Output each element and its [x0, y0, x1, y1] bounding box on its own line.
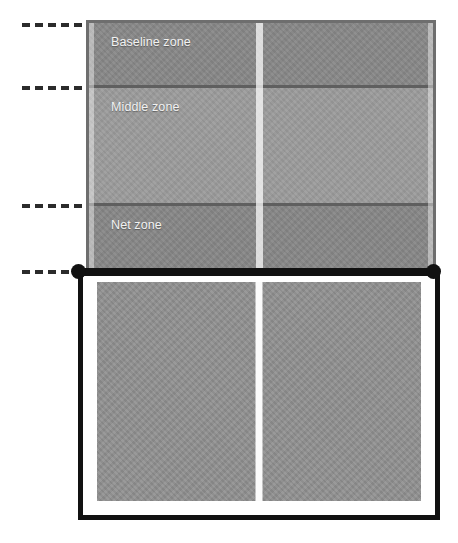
zone-middle-label: Middle zone	[111, 100, 180, 114]
net-post-right-icon	[426, 264, 441, 279]
tick-baseline-middle	[22, 86, 82, 90]
near-court-center-line	[256, 282, 263, 501]
zone-net-label: Net zone	[111, 218, 162, 232]
far-court-sideline-right	[428, 23, 433, 269]
zone-baseline-label: Baseline zone	[111, 35, 191, 49]
diagram-canvas: Baseline zone Middle zone Net zone	[0, 0, 458, 543]
net-line	[78, 268, 434, 275]
far-court-center-line	[256, 23, 263, 269]
near-court-surface	[97, 282, 421, 501]
net-post-left-icon	[71, 264, 86, 279]
tick-far-baseline	[22, 23, 82, 27]
tick-middle-net	[22, 204, 82, 208]
far-court-sideline-left	[89, 23, 94, 269]
far-court: Baseline zone Middle zone Net zone	[86, 20, 436, 272]
near-court	[78, 271, 440, 520]
